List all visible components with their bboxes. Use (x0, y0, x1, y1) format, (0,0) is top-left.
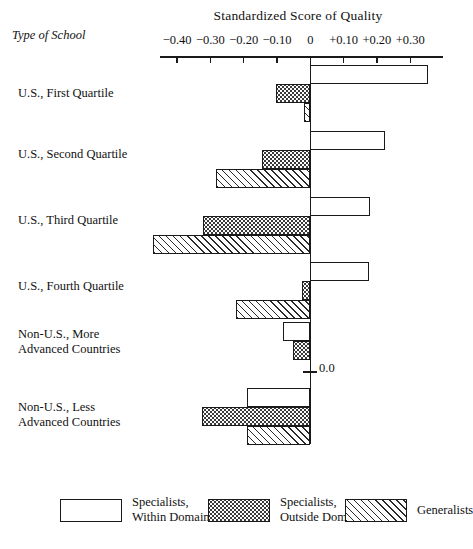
bar-hatch (247, 426, 310, 445)
bar-white (310, 262, 368, 281)
x-axis-line (160, 56, 443, 58)
bar-dots (262, 150, 310, 169)
chart-legend: Specialists,Within DomainSpecialists,Out… (0, 495, 469, 543)
legend-label-line: Generalists (417, 503, 473, 518)
bar-white (247, 388, 310, 407)
x-axis-tick (343, 57, 344, 63)
bar-hatch (304, 103, 310, 122)
bar-white (310, 131, 385, 150)
legend-label: Generalists (417, 503, 473, 518)
x-axis-tick-label: +0.30 (382, 33, 438, 48)
category-label-line: Advanced Countries (18, 415, 120, 430)
category-label: U.S., Fourth Quartile (18, 279, 124, 294)
x-axis-tick (376, 57, 377, 63)
bar-dots (276, 84, 310, 103)
legend-swatch-white (60, 499, 122, 522)
category-label-line: U.S., Fourth Quartile (18, 279, 124, 294)
legend-swatch-dots (208, 499, 270, 522)
x-axis-tick (410, 57, 411, 63)
bar-white (310, 65, 428, 84)
category-label: Non-U.S., MoreAdvanced Countries (18, 327, 120, 356)
x-axis-tick (243, 57, 244, 63)
bar-dots (293, 341, 310, 360)
bar-dots (302, 281, 310, 300)
bar-white (283, 322, 310, 341)
category-label: U.S., First Quartile (18, 86, 113, 101)
category-label-line: U.S., First Quartile (18, 86, 113, 101)
bar-dots (203, 216, 310, 235)
chart-title: Standardized Score of Quality (178, 8, 418, 24)
bar-dots (202, 407, 310, 426)
legend-swatch-hatch (345, 499, 407, 522)
category-label-line: U.S., Third Quartile (18, 213, 118, 228)
x-axis-tick (210, 57, 211, 63)
y-axis-title: Type of School (12, 28, 85, 43)
legend-label-line: Specialists, (132, 495, 210, 510)
category-label-line: Non-U.S., Less (18, 400, 120, 415)
category-label: U.S., Third Quartile (18, 213, 118, 228)
bar-hatch (216, 169, 310, 188)
category-label: U.S., Second Quartile (18, 147, 127, 162)
legend-label: Specialists,Within Domain (132, 495, 210, 524)
bar-hatch (153, 235, 310, 254)
category-label: Non-U.S., LessAdvanced Countries (18, 400, 120, 429)
bar-hatch (236, 300, 310, 319)
x-axis-tick (276, 57, 277, 63)
category-label-line: Advanced Countries (18, 342, 120, 357)
x-axis-tick (176, 57, 177, 63)
bar-white (310, 197, 370, 216)
category-label-line: U.S., Second Quartile (18, 147, 127, 162)
category-label-line: Non-U.S., More (18, 327, 120, 342)
legend-label-line: Within Domain (132, 510, 210, 525)
zero-annotation-label: 0.0 (319, 361, 335, 376)
x-axis-tick (310, 57, 311, 63)
zero-annotation-tick (303, 371, 317, 373)
